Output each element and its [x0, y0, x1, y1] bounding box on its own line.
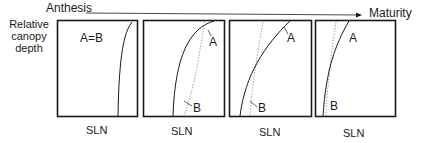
- panel-4-curve-b-label: B: [330, 101, 338, 112]
- panel-3: [230, 21, 312, 117]
- panel-3-curve-a-label: A: [287, 33, 295, 44]
- panel-4-x-label: SLN: [343, 128, 364, 139]
- panel-4-curve-a-label: A: [349, 33, 357, 44]
- panel-2-x-label: SLN: [171, 126, 192, 137]
- diagram-canvas: [0, 0, 422, 143]
- panel-2-curve-a-label: A: [209, 37, 217, 48]
- panel-1-x-label: SLN: [86, 125, 107, 136]
- panel-3-x-label: SLN: [259, 127, 280, 138]
- panel-2-curve-b-label: B: [193, 103, 201, 114]
- panel-3-curve-b-label: B: [258, 103, 266, 114]
- time-arrow: [86, 13, 362, 18]
- panel-1-annotation: A=B: [80, 33, 103, 44]
